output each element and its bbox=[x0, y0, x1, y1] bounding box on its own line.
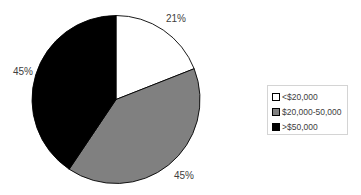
legend-swatch-black bbox=[272, 123, 280, 131]
data-label-over-50000: 45% bbox=[13, 67, 33, 77]
legend-swatch-white bbox=[272, 93, 280, 101]
legend-swatch-gray bbox=[272, 108, 280, 116]
legend-item-20000-50000: $20,000-50,000 bbox=[272, 104, 347, 119]
legend: <$20,000 $20,000-50,000 >$50,000 bbox=[267, 85, 348, 135]
legend-label: <$20,000 bbox=[282, 92, 318, 102]
legend-label: $20,000-50,000 bbox=[282, 107, 342, 117]
pie-chart: 21% 45% 45% <$20,000 $20,000-50,000 >$50… bbox=[0, 0, 361, 195]
legend-item-under-20000: <$20,000 bbox=[272, 89, 347, 104]
legend-label: >$50,000 bbox=[282, 122, 318, 132]
data-label-under-20000: 21% bbox=[166, 14, 186, 24]
legend-item-over-50000: >$50,000 bbox=[272, 119, 347, 134]
data-label-20000-50000: 45% bbox=[174, 171, 194, 181]
